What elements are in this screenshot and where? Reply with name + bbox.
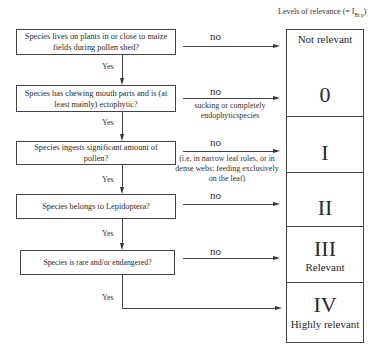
no-arrow-4 [183,204,275,205]
question-text: Species lives on plants in or close to m… [23,31,169,53]
question-text: Species belongs to Lepidoptera? [42,201,150,212]
level-not-relevant: Not relevant [287,33,363,46]
level-i: I [287,142,363,164]
header-close: ) [364,7,367,16]
question-text: Species is rare and/or endangered? [43,257,151,268]
levels-of-relevance-header: Levels of relevance (= IBt p) [278,7,366,18]
level-label: Not relevant [298,33,353,45]
yes-connector-4 [122,219,123,244]
level-divider [287,116,363,117]
level-roman: II [318,195,333,220]
header-text: Levels of relevance (= I [278,7,354,16]
arrow-down-icon [120,243,124,250]
header-subscript: Bt p [354,12,363,18]
level-divider [287,172,363,173]
yes-connector-3 [122,165,123,188]
no-arrow-5 [183,258,275,259]
arrow-right-icon [273,149,280,153]
question-box-lepidoptera: Species belongs to Lepidoptera? [16,194,176,219]
arrow-right-icon [273,256,280,260]
level-roman: I [321,140,328,165]
no-label-4: no [210,189,221,201]
no-arrow-1 [183,46,275,47]
level-iii-label: Relevant [287,261,363,274]
level-roman: IV [313,292,336,317]
arrow-right-icon [273,202,280,206]
level-iv: IV [287,294,363,316]
yes-connector-5 [122,275,123,308]
level-label: Relevant [305,261,344,273]
note-narrow-leaf-rolls: (i.e, in narrow leaf roles, or in dense … [172,154,282,184]
arrow-right-icon [275,306,282,310]
level-roman: 0 [320,82,331,107]
levels-column: Not relevant 0 I II III Relevant IV High… [286,29,364,343]
arrow-down-icon [120,78,124,85]
yes-arrow-to-iv [122,308,277,309]
question-box-ingests-pollen: Species ingests significant amount of po… [16,141,176,165]
no-label-5: no [210,245,221,257]
no-label-3: no [210,136,221,148]
question-text: Species ingests significant amount of po… [23,142,169,164]
yes-label-1: Yes [102,62,114,71]
level-divider [287,282,363,283]
arrow-down-icon [120,134,124,141]
level-iv-label: Highly relevant [287,318,363,331]
question-text: Species has chewing mouth parts and is (… [23,88,169,110]
no-label-2: no [210,85,221,97]
yes-label-2: Yes [102,118,114,127]
arrow-right-icon [273,44,280,48]
yes-connector-2 [122,112,123,135]
arrow-right-icon [273,96,280,100]
note-sucking-endophytic: sucking or completely endophyticspecies [180,101,280,121]
question-box-rare-endangered: Species is rare and/or endangered? [20,250,175,275]
question-box-chewing-ectophytic: Species has chewing mouth parts and is (… [16,85,176,112]
level-roman: III [314,236,336,261]
yes-label-3: Yes [102,175,114,184]
level-iii: III [287,238,363,260]
yes-label-5: Yes [102,293,114,302]
level-ii: II [287,197,363,219]
yes-label-4: Yes [102,229,114,238]
question-box-lives-near-maize: Species lives on plants in or close to m… [16,29,176,55]
yes-connector-1 [122,55,123,79]
level-label: Highly relevant [291,318,360,330]
no-arrow-2 [183,98,275,99]
no-label-1: no [210,30,221,42]
level-divider [287,226,363,227]
no-arrow-3 [183,151,275,152]
arrow-down-icon [120,187,124,194]
level-0: 0 [287,84,363,106]
